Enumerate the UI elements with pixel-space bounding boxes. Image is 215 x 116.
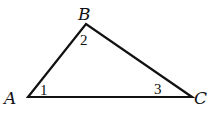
vertex-label-c: C [194,88,207,108]
angle-label-2: 2 [80,32,88,48]
angle-label-1: 1 [40,82,48,98]
angle-label-3: 3 [154,81,162,97]
triangle-diagram: A B C 1 2 3 [0,0,215,116]
vertex-label-b: B [77,4,91,24]
triangle-abc [28,24,192,97]
vertex-label-a: A [2,88,16,108]
